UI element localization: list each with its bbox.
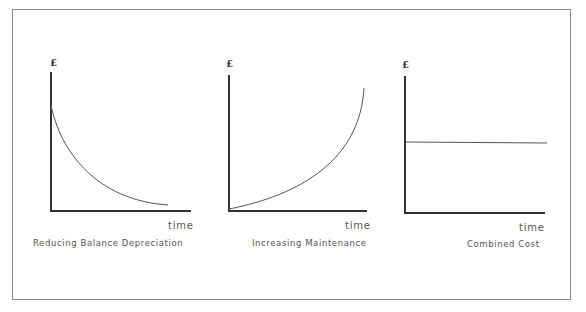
panel-increasing-maintenance <box>228 75 367 211</box>
x-axis-label: time <box>168 220 194 231</box>
panel-caption: Combined Cost <box>467 239 540 249</box>
cost-curves-diagram <box>0 0 586 312</box>
x-axis-label: time <box>345 220 371 231</box>
y-axis-label: £ <box>226 58 233 69</box>
y-axis-label: £ <box>402 59 409 70</box>
panel-reducing-balance <box>50 72 191 211</box>
maintenance-curve <box>229 88 364 209</box>
depreciation-curve <box>51 105 168 205</box>
panel-combined-cost <box>404 76 547 213</box>
panel-caption: Reducing Balance Depreciation <box>33 238 183 248</box>
panel-caption: Increasing Maintenance <box>252 238 367 248</box>
x-axis-label: time <box>519 222 545 233</box>
y-axis-label: £ <box>50 57 57 68</box>
combined-cost-line <box>406 142 547 143</box>
